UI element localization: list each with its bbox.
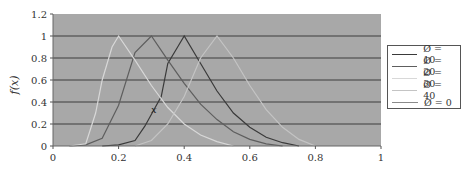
annotation-x: x <box>151 104 157 115</box>
legend-line-swatch <box>392 90 417 91</box>
x-tick-label: 0.2 <box>111 152 127 163</box>
legend: Ø = 10Ø = 20Ø = 30Ø = 40Ø = 0 <box>387 45 461 109</box>
x-tick-label: 0.8 <box>307 152 323 163</box>
y-tick-label: 0.6 <box>31 75 47 86</box>
y-tick-label: 0.2 <box>31 119 47 130</box>
y-axis-label: f(x) <box>8 76 21 96</box>
y-tick-label: 1.2 <box>31 9 47 20</box>
legend-item: Ø = 0 <box>392 96 456 108</box>
legend-line-swatch <box>392 102 418 103</box>
legend-label: Ø = 0 <box>424 97 452 108</box>
y-tick-label: 0.4 <box>31 97 47 108</box>
x-tick-label: 0.6 <box>242 152 258 163</box>
legend-line-swatch <box>392 66 417 67</box>
x-tick-label: 0 <box>50 152 56 163</box>
legend-item: Ø = 40 <box>392 84 456 96</box>
y-tick-label: 0.8 <box>31 53 47 64</box>
y-tick-label: 1 <box>41 31 47 42</box>
x-tick-label: 0.4 <box>176 152 192 163</box>
legend-line-swatch <box>392 54 417 55</box>
x-tick-label: 1 <box>378 152 384 163</box>
legend-line-swatch <box>392 78 417 79</box>
y-tick-label: 0 <box>41 141 47 152</box>
